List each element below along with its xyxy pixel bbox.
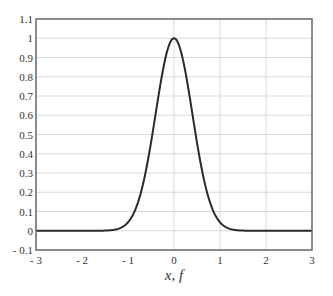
x-tick-label: - 2 <box>76 254 88 266</box>
y-tick-label: 0 <box>28 225 34 237</box>
y-tick-label: 0.8 <box>19 71 33 83</box>
y-tick-label: 0.6 <box>19 109 33 121</box>
y-axis-ticks: - 0.100.10.20.30.40.50.60.70.80.911.1 <box>13 13 34 256</box>
x-tick-label: 3 <box>309 254 315 266</box>
x-tick-label: - 3 <box>30 254 42 266</box>
x-tick-label: 2 <box>263 254 269 266</box>
y-tick-label: 0.1 <box>19 206 33 218</box>
y-tick-label: 1 <box>28 32 34 44</box>
line-chart: - 0.100.10.20.30.40.50.60.70.80.911.1 - … <box>0 0 333 296</box>
x-tick-label: - 1 <box>122 254 134 266</box>
y-tick-label: 0.9 <box>19 52 33 64</box>
x-tick-label: 0 <box>171 254 177 266</box>
x-axis-label: x, f <box>164 267 185 283</box>
grid-lines <box>36 19 312 250</box>
x-tick-label: 1 <box>217 254 223 266</box>
y-tick-label: 0.3 <box>19 167 33 179</box>
y-tick-label: 1.1 <box>19 13 33 25</box>
y-tick-label: 0.2 <box>19 186 33 198</box>
x-axis-ticks: - 3- 2- 10123 <box>30 254 315 266</box>
y-tick-label: 0.4 <box>19 148 33 160</box>
y-tick-label: 0.7 <box>19 90 33 102</box>
y-tick-label: 0.5 <box>19 129 33 141</box>
